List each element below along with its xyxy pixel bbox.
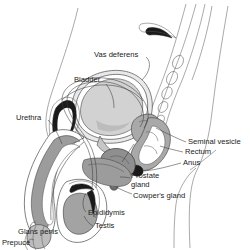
label-testis: Testis — [95, 221, 115, 230]
anatomy-diagram: Vas deferens Bladder Urethra Seminal ves… — [0, 0, 250, 250]
label-prepuce: Prepuce — [2, 238, 30, 247]
sacral-curve-mid — [166, 4, 205, 124]
sagittal-section-figure: Vas deferens Bladder Urethra Seminal ves… — [0, 0, 250, 250]
label-bladder: Bladder — [74, 75, 101, 84]
label-urethra: Urethra — [16, 113, 42, 122]
label-prostate-gland-line2: gland — [131, 180, 150, 189]
label-epididymis: Epididymis — [88, 208, 125, 217]
label-cowpers-gland: Cowper's gland — [133, 191, 185, 200]
label-anus: Anus — [183, 158, 201, 167]
thigh-contour — [174, 168, 196, 248]
label-prostate-gland-line1: Prostate — [131, 171, 159, 180]
sacral-curve-outer — [156, 4, 196, 122]
label-seminal-vesicle: Seminal vesicle — [188, 137, 241, 146]
label-rectum: Rectum — [185, 147, 211, 156]
sacral-promontory — [146, 27, 172, 38]
label-glans-penis: Glans penis — [18, 227, 58, 236]
vertebra-2 — [164, 69, 180, 86]
label-vas-deferens: Vas deferens — [94, 50, 138, 59]
vertebra-4 — [156, 100, 170, 115]
leader-vas-deferens — [142, 57, 149, 80]
vertebra-1 — [170, 53, 185, 70]
vertebra-3 — [160, 85, 175, 101]
leader-cowpers-gland — [116, 187, 132, 194]
